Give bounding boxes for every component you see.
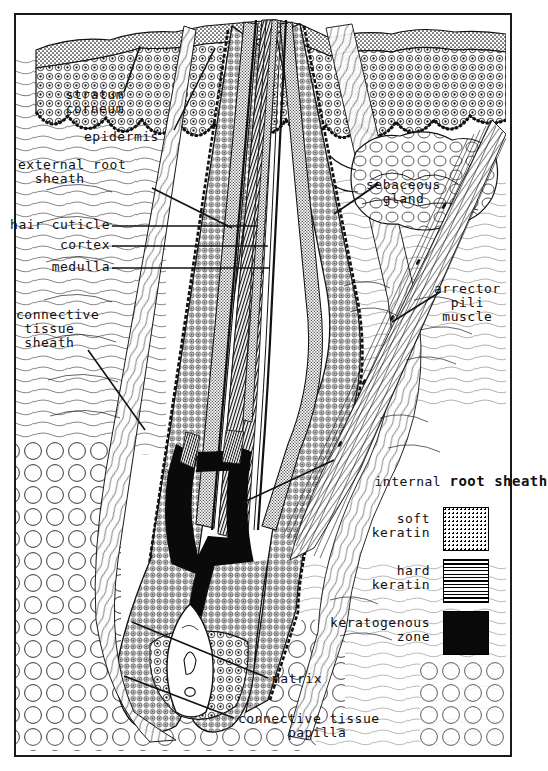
label-internal-root-sheath-part1: internal [375,474,450,489]
label-internal-root-sheath-part2: root sheath [449,473,547,489]
label-medulla: medulla [6,260,110,274]
soft-keratin-swatch [443,507,489,551]
label-connective-tissue-sheath: connective tissue sheath [16,308,99,350]
label-cortex: cortex [6,238,110,252]
label-external-root-sheath: external root sheath [18,158,126,186]
label-sebaceous-gland: sebaceous gland [366,178,441,206]
legend-label-1: hard keratin [320,564,430,592]
label-arrector-pili-muscle: arrector pili muscle [434,282,501,324]
label-hair-cuticle: hair cuticle [6,218,110,232]
keratogenous-zone-swatch [443,611,489,655]
label-connective-tissue-papilla: connective tissue papilla [238,712,380,740]
hard-keratin-swatch [443,559,489,603]
legend: soft keratin hard keratin keratogenous z… [320,500,500,660]
label-epidermis: epidermis [84,130,159,144]
legend-label-2: keratogenous zone [308,616,430,644]
label-matrix: matrix [272,672,322,686]
label-stratum-corneum: stratum corneum [16,88,124,116]
legend-label-0: soft keratin [320,512,430,540]
